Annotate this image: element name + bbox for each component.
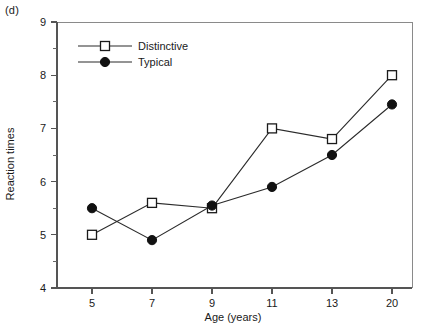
- data-point-marker: [387, 100, 396, 109]
- data-point-marker: [147, 236, 156, 245]
- data-point-marker: [327, 150, 336, 159]
- legend-marker-icon: [100, 57, 109, 66]
- legend-item-distinctive: Distinctive: [78, 40, 188, 52]
- data-point-marker: [88, 230, 97, 239]
- legend-label: Distinctive: [138, 40, 188, 52]
- x-tick-label: 5: [89, 297, 95, 309]
- x-axis-title: Age (years): [205, 311, 262, 323]
- y-tick-label: 6: [40, 176, 46, 188]
- x-tick-label: 7: [149, 297, 155, 309]
- x-tick-label: 11: [266, 297, 277, 309]
- axis-tick-labels: 456789579111320: [40, 16, 398, 309]
- data-point-marker: [267, 182, 276, 191]
- legend-item-typical: Typical: [78, 56, 172, 68]
- chart-legend: DistinctiveTypical: [78, 40, 188, 68]
- legend-marker-icon: [101, 42, 110, 51]
- data-point-marker: [148, 198, 157, 207]
- y-tick-label: 9: [40, 16, 46, 28]
- x-tick-label: 9: [209, 297, 215, 309]
- legend-label: Typical: [138, 56, 172, 68]
- data-point-marker: [268, 124, 277, 133]
- data-point-marker: [328, 135, 337, 144]
- series-line: [92, 104, 392, 240]
- line-chart: 456789579111320 DistinctiveTypical Age (…: [0, 0, 426, 328]
- series-line: [92, 75, 392, 235]
- y-tick-label: 8: [40, 69, 46, 81]
- data-point-marker: [207, 201, 216, 210]
- series-markers-distinctive: [88, 71, 397, 240]
- data-point-marker: [87, 204, 96, 213]
- series-markers-typical: [87, 100, 396, 245]
- series-typical: [92, 104, 392, 240]
- y-tick-label: 5: [40, 229, 46, 241]
- data-point-marker: [388, 71, 397, 80]
- data-series: [87, 71, 396, 245]
- y-axis-title: Reaction times: [4, 127, 16, 200]
- y-tick-label: 7: [40, 122, 46, 134]
- chart-panel: (d) 456789579111320 DistinctiveTypical A…: [0, 0, 426, 328]
- x-tick-label: 20: [386, 297, 398, 309]
- series-distinctive: [92, 75, 392, 235]
- x-tick-label: 13: [326, 297, 338, 309]
- y-tick-label: 4: [40, 282, 46, 294]
